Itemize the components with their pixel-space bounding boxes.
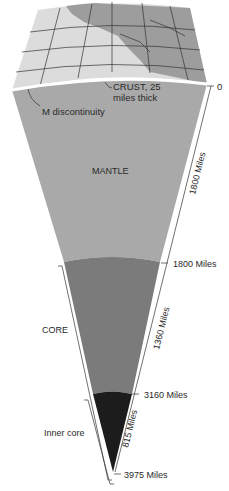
m-discontinuity-label: M discontinuity — [42, 106, 105, 117]
earth-interior-diagram: CRUST, 25 miles thick M discontinuity MA… — [0, 0, 229, 491]
core-layer — [64, 257, 160, 394]
crust-label: CRUST, 25 — [113, 81, 161, 92]
crust-label-2: miles thick — [113, 92, 158, 103]
surface-map — [12, 2, 207, 90]
depth-1800-label: 1800 Miles — [173, 259, 217, 269]
core-label: CORE — [42, 325, 68, 335]
inner-core-label: Inner core — [44, 428, 85, 438]
depth-3975-label: 3975 Miles — [124, 470, 168, 480]
mantle-thickness-label: 1800 Miles — [187, 150, 207, 195]
mantle-label: MANTLE — [92, 166, 129, 176]
depth-3160-label: 3160 Miles — [144, 390, 188, 400]
core-thickness-label: 1360 Miles — [151, 305, 171, 350]
depth-0-label: 0 — [217, 81, 222, 92]
